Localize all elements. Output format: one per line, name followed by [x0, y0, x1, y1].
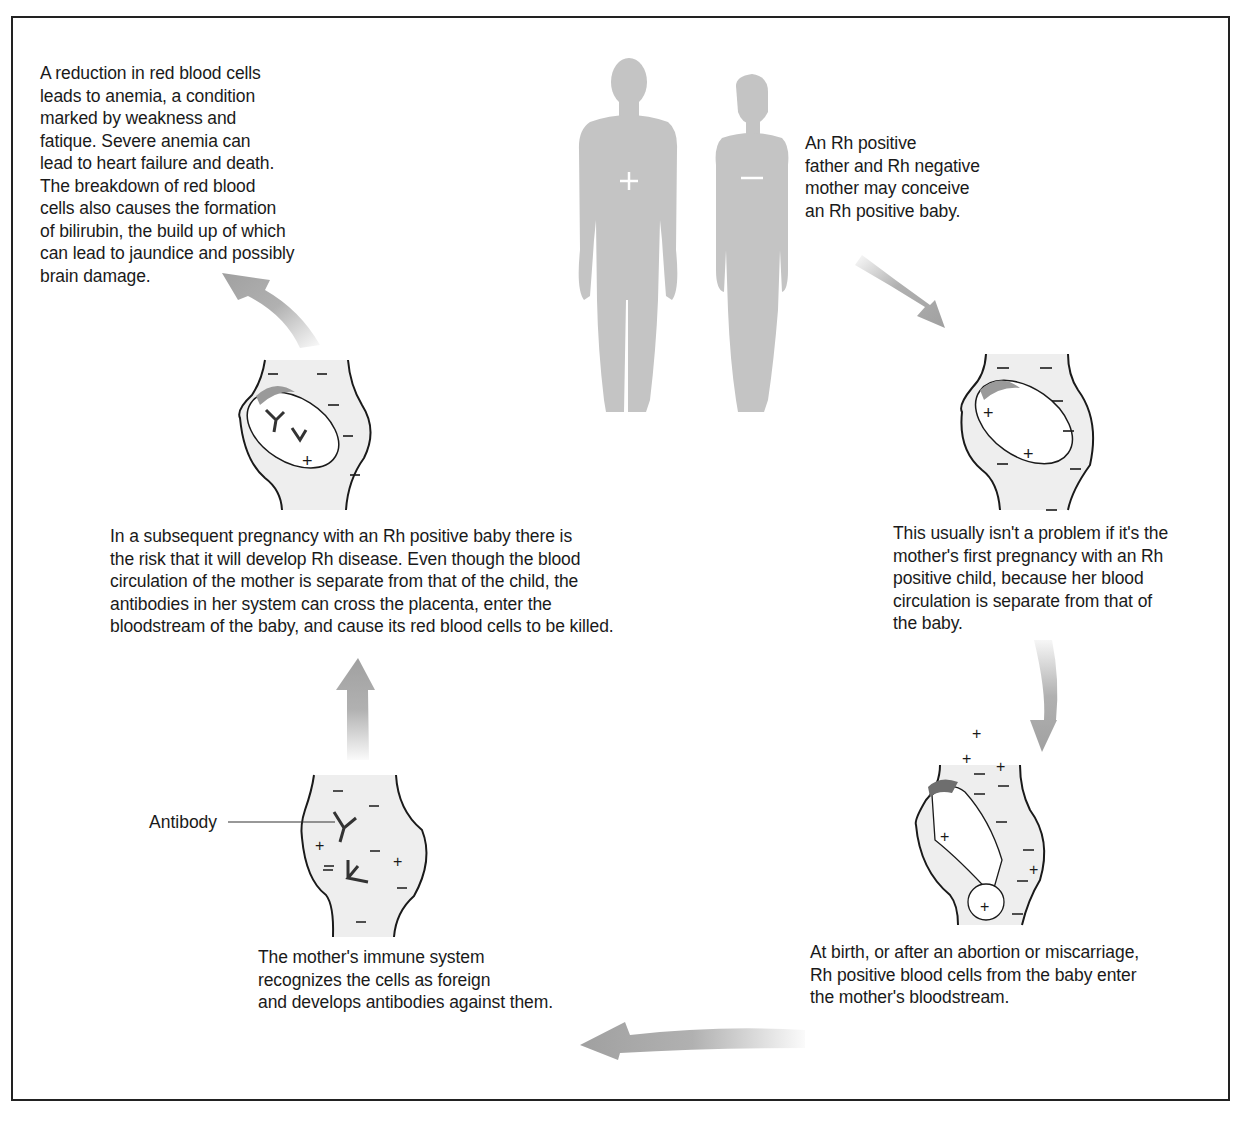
immune-response-description: The mother's immune system recognizes th…: [258, 946, 553, 1014]
arrow-to-subsequent-pregnancy-icon: [336, 658, 375, 760]
svg-text:+: +: [980, 898, 989, 915]
arrow-to-first-pregnancy-icon: [855, 255, 945, 328]
svg-text:+: +: [972, 725, 981, 742]
first-pregnancy-description: This usually isn't a problem if it's the…: [893, 522, 1168, 635]
svg-text:+: +: [315, 837, 324, 854]
arrow-to-immune-response-icon: [580, 1022, 805, 1060]
svg-text:+: +: [996, 758, 1005, 775]
antibody-label: Antibody: [149, 812, 217, 833]
svg-text:+: +: [302, 451, 313, 471]
arrow-to-birth-icon: [1030, 640, 1057, 752]
first-pregnancy-illustration-icon: + +: [960, 354, 1093, 510]
svg-text:+: +: [962, 750, 971, 767]
subsequent-pregnancy-illustration-icon: +: [234, 360, 371, 510]
birth-illustration-icon: +++ +++: [916, 725, 1045, 925]
svg-text:+: +: [1029, 861, 1038, 878]
parents-description: An Rh positive father and Rh negative mo…: [805, 132, 980, 222]
svg-text:+: +: [1023, 444, 1034, 464]
mother-silhouette-icon: [716, 74, 789, 412]
plus-sign: +: [983, 403, 994, 423]
birth-description: At birth, or after an abortion or miscar…: [810, 941, 1139, 1009]
subsequent-pregnancy-description: In a subsequent pregnancy with an Rh pos…: [110, 525, 614, 638]
svg-text:+: +: [940, 828, 949, 845]
immune-response-illustration-icon: ++: [228, 775, 427, 937]
svg-text:+: +: [393, 853, 402, 870]
father-silhouette-icon: [579, 58, 678, 412]
anemia-description: A reduction in red blood cells leads to …: [40, 62, 295, 287]
